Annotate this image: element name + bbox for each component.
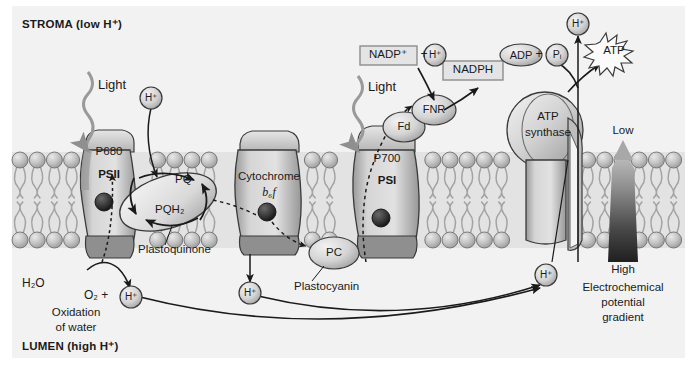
proton-label-stroma-atp: H⁺: [572, 18, 584, 29]
gradient-label-3: gradient: [602, 311, 644, 324]
oxygen-label: O₂ +: [84, 289, 108, 302]
fnr-label: FNR: [423, 103, 446, 115]
cytochrome-subunit-label: b₆f: [262, 186, 276, 199]
fd-label: Fd: [398, 120, 411, 132]
proton-label-nadp: H⁺: [429, 49, 441, 60]
pq-label: PQ: [175, 173, 192, 186]
p680-label: P680: [96, 145, 123, 158]
light-label-psi: Light: [368, 80, 396, 94]
atp-label: ATP: [603, 44, 625, 57]
water-label: H₂O: [22, 277, 45, 290]
proton-label-cytb6f: H⁺: [244, 287, 256, 298]
gradient-label-1: Electrochemical: [582, 281, 663, 294]
plus-sign-nadp: +: [420, 48, 427, 61]
plus-sign-adp: +: [535, 48, 542, 61]
plastocyanin-label: Plastocyanin: [294, 280, 359, 293]
stroma-label: STROMA (low H⁺): [22, 18, 122, 31]
gradient-low-label: Low: [612, 124, 633, 137]
atp-synthase-label-1: ATP: [537, 110, 559, 123]
cytochrome-label: Cytochrome: [238, 170, 300, 183]
psii-label: PSII: [98, 168, 120, 181]
oxidation-label-1: Oxidation: [52, 306, 101, 319]
plastoquinone-label: Plastoquinone: [138, 243, 211, 256]
p700-label: P700: [374, 152, 401, 165]
oxidation-label-2: of water: [56, 321, 97, 334]
pi-label: Pᵢ: [553, 49, 562, 61]
psi-label: PSI: [378, 174, 397, 187]
light-label-psii: Light: [98, 78, 126, 92]
diagram-svg: [0, 0, 697, 370]
proton-label-lumen-atp: H⁺: [540, 269, 552, 280]
nadph-label: NADPH: [453, 63, 493, 76]
gradient-high-label: High: [611, 263, 635, 276]
nadp-plus-label: NADP⁺: [369, 48, 407, 61]
proton-label-water: H⁺: [125, 291, 137, 302]
adp-label: ADP: [510, 49, 533, 61]
atp-synthase-label-2: synthase: [525, 126, 571, 139]
pqh2-label: PQH₂: [155, 203, 184, 216]
lumen-label: LUMEN (high H⁺): [22, 340, 119, 353]
gradient-label-2: potential: [601, 296, 644, 309]
pc-label: PC: [326, 246, 342, 259]
figure-canvas: STROMA (low H⁺) LUMEN (high H⁺) Light Li…: [0, 0, 697, 370]
proton-label-stroma-psii: H⁺: [145, 92, 157, 103]
